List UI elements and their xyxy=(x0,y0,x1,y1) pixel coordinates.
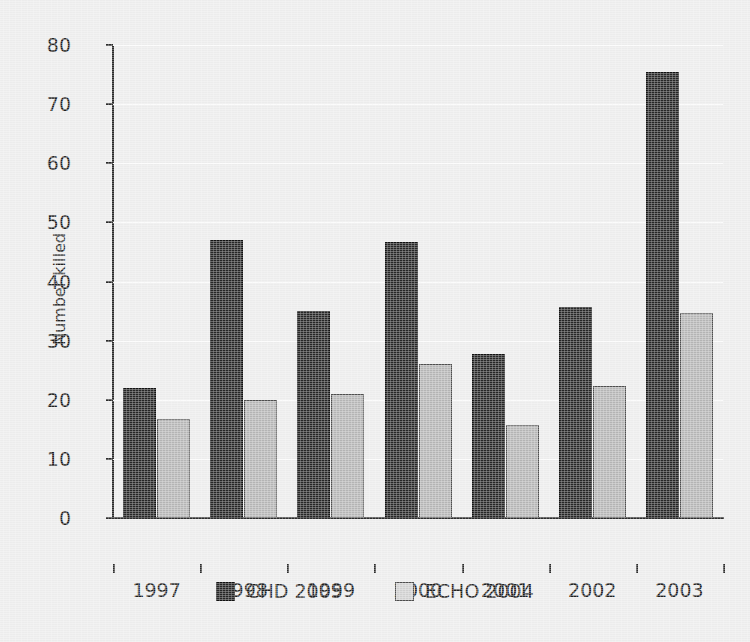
chart-legend: CHD 2005ECHO 2004 xyxy=(0,580,750,602)
y-tick-label: 20 xyxy=(25,391,71,410)
gridline xyxy=(113,45,723,46)
x-tick-mark xyxy=(113,564,115,573)
y-tick-label: 70 xyxy=(25,95,71,114)
y-tick-mark xyxy=(106,399,113,401)
legend-label: CHD 2005 xyxy=(246,580,343,602)
y-tick-label: 50 xyxy=(25,213,71,232)
x-tick-mark xyxy=(200,564,202,573)
bar-echo-2004-1998 xyxy=(244,400,277,518)
bar-echo-2004-1999 xyxy=(331,394,364,518)
bar-echo-2004-2003 xyxy=(680,313,713,518)
x-tick-mark xyxy=(723,564,725,573)
x-tick-mark xyxy=(374,564,376,573)
gridline xyxy=(113,341,723,342)
bar-chd-2005-1997 xyxy=(123,388,156,518)
legend-swatch-icon xyxy=(395,582,414,601)
y-tick-mark xyxy=(106,162,113,164)
legend-item-echo-2004[interactable]: ECHO 2004 xyxy=(395,580,534,602)
gridline xyxy=(113,222,723,223)
y-tick-mark xyxy=(106,103,113,105)
x-tick-mark xyxy=(287,564,289,573)
gridline xyxy=(113,163,723,164)
bar-echo-2004-2001 xyxy=(506,425,539,518)
legend-label: ECHO 2004 xyxy=(425,580,534,602)
bar-echo-2004-1997 xyxy=(157,419,190,518)
bar-chd-2005-2001 xyxy=(472,354,505,518)
x-tick-mark xyxy=(636,564,638,573)
y-tick-label: 60 xyxy=(25,154,71,173)
bar-chd-2005-2000 xyxy=(385,242,418,518)
y-tick-mark xyxy=(106,458,113,460)
legend-item-chd-2005[interactable]: CHD 2005 xyxy=(216,580,343,602)
x-tick-mark xyxy=(462,564,464,573)
bar-chd-2005-1999 xyxy=(297,311,330,518)
plot-area: 0102030405060708019971998199920002001200… xyxy=(113,45,723,518)
y-tick-mark xyxy=(106,281,113,283)
y-tick-mark xyxy=(106,221,113,223)
bar-chd-2005-2002 xyxy=(559,307,592,518)
gridline xyxy=(113,282,723,283)
bar-chd-2005-1998 xyxy=(210,240,243,518)
bar-chart: Number killed 01020304050607080199719981… xyxy=(0,0,750,642)
bar-chd-2005-2003 xyxy=(646,72,679,518)
y-tick-label: 10 xyxy=(25,450,71,469)
y-tick-label: 40 xyxy=(25,273,71,292)
y-tick-mark xyxy=(106,340,113,342)
y-tick-mark xyxy=(106,44,113,46)
y-tick-label: 30 xyxy=(25,332,71,351)
bar-echo-2004-2000 xyxy=(419,364,452,518)
y-tick-label: 80 xyxy=(25,36,71,55)
y-tick-label: 0 xyxy=(25,509,71,528)
gridline xyxy=(113,104,723,105)
legend-swatch-icon xyxy=(216,582,235,601)
x-tick-mark xyxy=(549,564,551,573)
y-tick-mark xyxy=(106,517,113,519)
bar-echo-2004-2002 xyxy=(593,386,626,518)
